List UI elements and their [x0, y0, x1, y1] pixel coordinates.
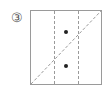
dot-top [64, 30, 68, 34]
dot-bottom [64, 64, 68, 68]
folding-diagram [0, 0, 107, 91]
diagonal-fold-line [31, 11, 101, 84]
